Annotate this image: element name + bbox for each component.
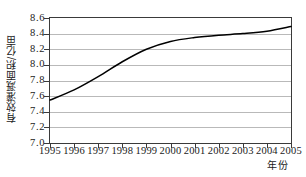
x-axis-tick-mark bbox=[122, 144, 123, 148]
y-axis-tick-label: 8.0 bbox=[30, 59, 45, 70]
x-axis-tick-mark bbox=[267, 144, 268, 148]
y-axis-tick-label: 8.4 bbox=[30, 28, 45, 39]
x-axis-tick-mark bbox=[74, 144, 75, 148]
y-axis-tick-label: 7.6 bbox=[30, 91, 45, 102]
x-axis-title: 年份 bbox=[255, 159, 301, 174]
y-axis-tick-label: 7.2 bbox=[30, 122, 45, 133]
x-axis-tick-mark bbox=[195, 144, 196, 148]
x-axis-tick-mark bbox=[98, 144, 99, 148]
y-axis-tick-label: 8.2 bbox=[30, 44, 45, 55]
chart-container: 有效灌溉面积/亿亩 7.07.27.47.67.88.08.28.48.6 19… bbox=[0, 0, 306, 177]
y-axis-tick-label: 7.4 bbox=[30, 106, 45, 117]
series-line-path bbox=[50, 27, 291, 100]
plot-area bbox=[49, 17, 292, 144]
y-axis-tick-label: 8.6 bbox=[30, 13, 45, 24]
series-line-chart bbox=[50, 18, 291, 143]
x-axis-tick-mark bbox=[219, 144, 220, 148]
x-axis-tick-mark bbox=[291, 144, 292, 148]
x-axis-tick-mark bbox=[146, 144, 147, 148]
y-axis-tick-labels: 7.07.27.47.67.88.08.28.48.6 bbox=[0, 0, 49, 161]
x-axis-tick-mark bbox=[171, 144, 172, 148]
x-axis-tick-mark bbox=[50, 144, 51, 148]
x-axis-tick-mark bbox=[243, 144, 244, 148]
y-axis-tick-label: 7.8 bbox=[30, 75, 45, 86]
